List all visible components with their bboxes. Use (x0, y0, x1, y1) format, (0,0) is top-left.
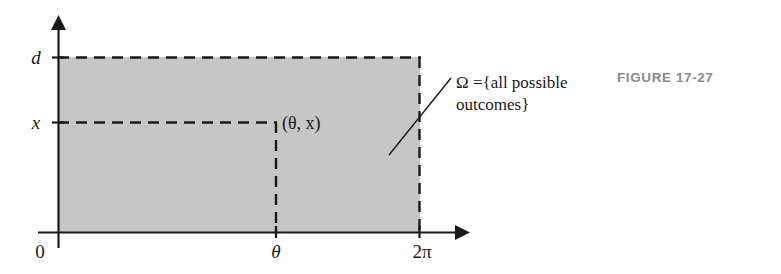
x-axis-arrowhead (455, 225, 470, 240)
omega-annotation-line2: outcomes} (456, 95, 529, 114)
y-axis-label-d: d (31, 47, 41, 68)
x-axis-label-theta: θ (271, 241, 280, 262)
sample-point-label: (θ, x) (282, 113, 321, 134)
figure-caption: FIGURE 17-27 (617, 70, 713, 85)
sample-space-shaded-region (58, 57, 420, 232)
probability-sample-space-diagram: d x 0 θ 2π (θ, x) Ω ={all possible outco… (0, 0, 781, 274)
omega-annotation-line1: Ω ={all possible (456, 73, 568, 92)
x-axis-label-twopi: 2π (412, 241, 432, 262)
y-axis-label-x: x (31, 112, 41, 133)
x-axis-label-origin: 0 (35, 241, 45, 262)
figure-container: d x 0 θ 2π (θ, x) Ω ={all possible outco… (0, 0, 781, 274)
y-axis-arrowhead (51, 15, 66, 30)
